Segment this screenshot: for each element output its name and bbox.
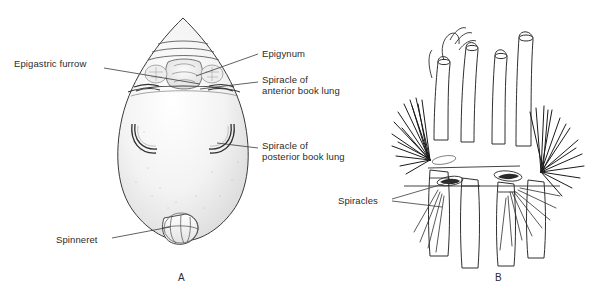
panel-letter-b: B	[495, 272, 502, 283]
figure-canvas: Epigastric furrow Epigynum Spiracle ofan…	[0, 0, 593, 298]
abdomen-outline	[118, 18, 248, 241]
spinneret-tubes	[434, 32, 533, 146]
label-spiracle-anterior-book-lung: Spiracle ofanterior book lung	[262, 74, 340, 96]
label-spiracles: Spiracles	[338, 195, 378, 206]
label-epigastric-furrow: Epigastric furrow	[14, 58, 86, 69]
label-spinneret: Spinneret	[56, 234, 98, 245]
panel-letter-a: A	[178, 272, 185, 283]
panel-b-drawing	[392, 28, 584, 268]
label-epigynum: Epigynum	[262, 48, 305, 59]
basal-segments	[429, 170, 546, 268]
epigynum-plate	[166, 59, 203, 89]
spinneret-cluster	[163, 213, 199, 244]
label-line-2: posterior book lung	[262, 151, 345, 162]
label-line-1: Spiracle of	[262, 140, 308, 151]
label-line-1: Spiracle of	[262, 74, 308, 85]
bristle-tuft-left	[392, 98, 430, 174]
panel-a-drawing	[118, 18, 248, 244]
label-line-2: anterior book lung	[262, 85, 340, 96]
label-spiracle-posterior-book-lung: Spiracle ofposterior book lung	[262, 140, 345, 162]
